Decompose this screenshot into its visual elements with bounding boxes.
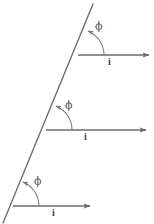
angle-group-top [78,31,149,55]
angle-group-bottom [13,182,90,206]
angle-label-middle: ϕ [65,100,73,111]
angle-arc-top [88,31,104,55]
angle-diagram-figure: ϕ i ϕ i ϕ i [0,0,154,224]
angle-label-top: ϕ [95,21,103,32]
inclined-line [3,4,93,223]
diagram-canvas [0,0,154,224]
current-label-top: i [108,57,111,67]
angle-group-middle [46,106,146,130]
angle-label-bottom: ϕ [34,176,42,187]
current-label-bottom: i [52,208,55,218]
current-label-middle: i [84,132,87,142]
